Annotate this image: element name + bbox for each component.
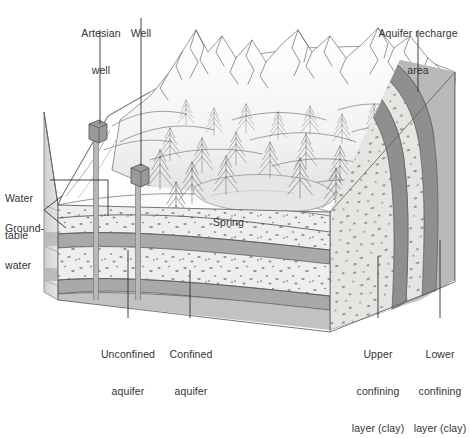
label-lower-confining-layer: Lower confining layer (clay) (404, 324, 470, 438)
label-aquifer-recharge-area: Aquifer recharge area (352, 3, 470, 88)
label-confined-aquifer: Confined aquifer (154, 324, 228, 409)
label-spring-line1: Spring (213, 216, 263, 228)
label-lower-confining-line1: Lower (404, 348, 470, 360)
label-confined-aquifer-line2: aquifer (154, 385, 228, 397)
artesian-wellhead[interactable] (89, 120, 107, 143)
label-artesian-well-line2: well (62, 64, 140, 76)
label-groundwater-line1: Ground- (5, 222, 57, 234)
label-lower-confining-line2: confining (404, 385, 470, 397)
label-groundwater: Ground- water (5, 198, 57, 283)
label-well: Well (116, 3, 166, 52)
label-well-line1: Well (116, 27, 166, 39)
label-confined-aquifer-line1: Confined (154, 348, 228, 360)
label-aquifer-recharge-line1: Aquifer recharge (352, 27, 470, 39)
label-aquifer-recharge-line2: area (352, 64, 470, 76)
label-groundwater-line2: water (5, 259, 57, 271)
wellhead[interactable] (131, 164, 149, 187)
label-lower-confining-line3: layer (clay) (404, 422, 470, 434)
label-spring: Spring (213, 192, 263, 241)
